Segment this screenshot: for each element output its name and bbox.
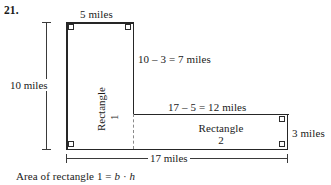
- shape-edge-upper-right: [133, 22, 135, 115]
- shape-edge-right: [287, 114, 289, 150]
- area-formula-height-variable: h: [130, 170, 136, 182]
- shape-edge-bottom: [66, 149, 288, 151]
- right-angle-mark-bottom-right: [279, 141, 285, 147]
- label-top-width: 5 miles: [80, 8, 113, 20]
- region-label-rectangle-1-name: Rectangle: [95, 87, 107, 131]
- shape-edge-top: [66, 22, 134, 24]
- area-formula-prefix: Area of rectangle 1 =: [16, 170, 115, 182]
- right-angle-mark-top-right: [125, 24, 131, 30]
- shape-edge-step-top: [133, 114, 289, 116]
- figure-canvas: 21. 10 miles 5 miles 10 – 3 = 7 miles 17…: [0, 0, 331, 185]
- shape-edge-left: [66, 22, 68, 150]
- right-angle-mark-step-right: [279, 116, 285, 122]
- dashed-divider-line: [133, 114, 134, 149]
- region-label-rectangle-2-number: 2: [186, 134, 256, 146]
- area-formula-operator: ·: [120, 170, 129, 182]
- dimension-cap-left-top: [42, 22, 51, 23]
- label-inner-horizontal: 17 – 5 = 12 miles: [168, 101, 247, 113]
- right-angle-mark-bottom-left: [68, 141, 74, 147]
- dimension-cap-bottom-left: [66, 154, 67, 163]
- label-left-height: 10 miles: [8, 79, 50, 91]
- dimension-cap-left-bottom: [42, 149, 51, 150]
- label-right-height: 3 miles: [292, 127, 325, 139]
- region-label-rectangle-1-number: 1: [108, 115, 120, 121]
- region-label-rectangle-2-name: Rectangle: [186, 122, 256, 134]
- dimension-cap-bottom-right: [287, 154, 288, 163]
- label-bottom-width: 17 miles: [148, 152, 190, 164]
- right-angle-mark-top-left: [68, 24, 74, 30]
- area-formula: Area of rectangle 1 = b · h: [16, 170, 135, 182]
- label-inner-vertical: 10 – 3 = 7 miles: [138, 53, 211, 65]
- problem-number: 21.: [4, 4, 19, 16]
